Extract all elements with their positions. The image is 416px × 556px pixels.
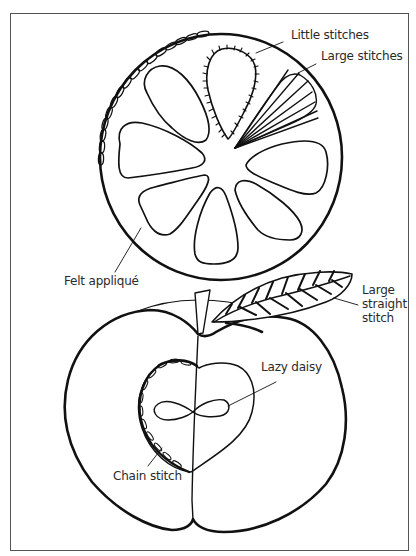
apple [65,271,358,532]
segment-upper-left [144,66,209,143]
apple-outline [65,310,346,532]
label-little-stitches: Little stitches [291,29,369,43]
leader-large-straight-stitch [334,298,358,305]
label-large-straight-stitch-line3: stitch [362,312,394,326]
label-large-stitches: Large stitches [321,50,403,64]
label-felt-applique: Felt appliqué [64,275,139,289]
stitch-illustration [0,0,416,556]
label-large-straight-stitch-line1: Large [362,284,395,298]
label-lazy-daisy: Lazy daisy [261,361,322,375]
orange-slice [98,30,342,280]
fan-large-stitches [235,70,318,148]
apple-leader-lines [148,298,358,466]
label-large-straight-stitch-line2: straight [362,298,407,312]
orange-segments [119,66,328,264]
orange-rind [100,34,342,280]
label-chain-stitch: Chain stitch [113,470,182,484]
segment-left [119,122,205,178]
segment-bottom [194,188,238,264]
apple-stem [195,290,210,334]
segment-lower-left [139,175,209,235]
lazy-daisy [154,400,229,420]
